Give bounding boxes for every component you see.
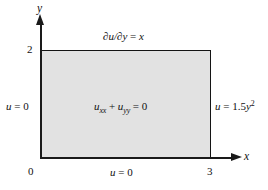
pde-equation: uxx + uyy = 0 — [94, 101, 147, 112]
subscript-yy: yy — [123, 106, 130, 115]
y-axis-tick-2: 2 — [27, 44, 33, 55]
equals-value-right: = 1.5 — [221, 100, 246, 112]
boundary-condition-left: u = 0 — [6, 101, 29, 112]
plus-sign-pde: + — [106, 100, 118, 112]
rhs-symbol-top: x — [139, 30, 144, 42]
u-symbol-pde-1: u — [94, 100, 100, 112]
equals-sign-top: = — [127, 30, 139, 42]
boundary-condition-right: u = 1.5y2 — [215, 101, 255, 112]
origin-tick-0: 0 — [28, 166, 34, 177]
equals-value-bottom: = 0 — [116, 166, 133, 178]
x-axis-line — [40, 157, 234, 159]
boundary-condition-top: ∂u/∂y = x — [103, 31, 144, 42]
boundary-condition-bottom: u = 0 — [110, 167, 133, 178]
x-axis-label: x — [244, 151, 249, 163]
exponent-right: 2 — [251, 99, 255, 108]
equals-value-left: = 0 — [12, 100, 29, 112]
y-axis-arrowhead — [36, 14, 44, 25]
boundary-value-problem-figure: y x 2 0 3 ∂u/∂y = x u = 0 u = 1.5y2 u = … — [0, 0, 268, 190]
x-axis-arrowhead — [231, 153, 242, 161]
x-axis-tick-3: 3 — [207, 166, 213, 177]
equals-zero-pde: = 0 — [130, 100, 147, 112]
y-axis-label: y — [37, 3, 42, 15]
y-axis-line — [40, 24, 42, 159]
subscript-xx: xx — [100, 106, 107, 115]
